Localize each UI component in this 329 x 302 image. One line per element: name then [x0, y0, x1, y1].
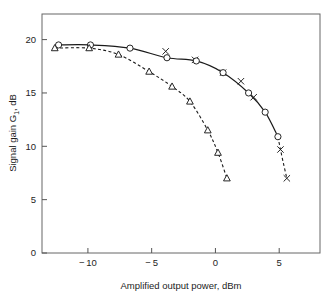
y-axis-title-tail: , dB — [7, 94, 18, 111]
marker-circle — [245, 90, 251, 96]
y-tick-label: 15 — [25, 87, 36, 98]
y-tick-label: 10 — [25, 141, 36, 152]
y-tick-label: 5 — [31, 194, 36, 205]
y-tick-label: 20 — [25, 34, 36, 45]
marker-circle — [262, 109, 268, 115]
y-axis-title-main: Signal gain G — [7, 115, 18, 172]
marker-circle — [127, 45, 133, 51]
marker-circle — [275, 134, 281, 140]
chart-figure: − 10− 505 05101520 Amplified output powe… — [0, 0, 329, 302]
x-tick-label: 0 — [213, 257, 218, 268]
y-axis-title: Signal gain G1, dB — [7, 94, 20, 172]
svg-text:Signal gain G1, dB: Signal gain G1, dB — [7, 94, 20, 172]
signal-gain-line-chart: − 10− 505 05101520 Amplified output powe… — [0, 0, 329, 302]
x-tick-label: − 5 — [145, 257, 158, 268]
x-tick-label: 5 — [277, 257, 282, 268]
x-tick-label: − 10 — [79, 257, 97, 268]
marker-circle — [220, 70, 226, 76]
marker-circle — [193, 58, 199, 64]
x-axis-title: Amplified output power, dBm — [121, 280, 242, 291]
marker-circle — [164, 55, 170, 61]
y-tick-label: 0 — [31, 247, 36, 258]
